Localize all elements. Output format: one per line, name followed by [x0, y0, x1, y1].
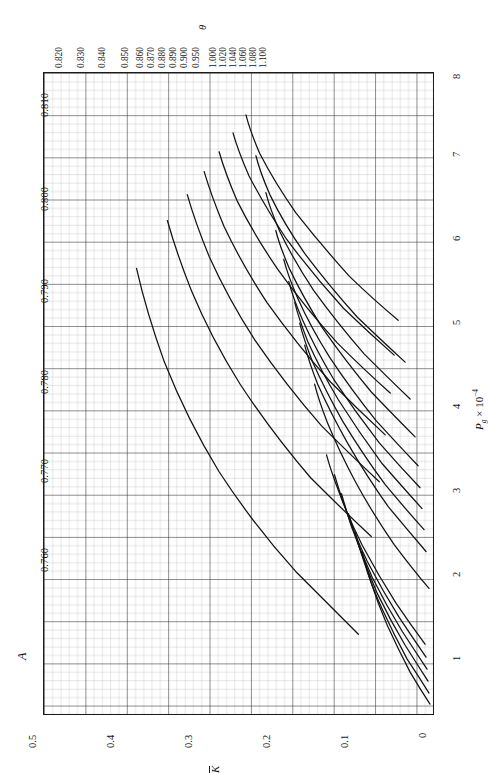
curve-0870: [289, 281, 420, 487]
k-tick-4: 0.1: [340, 735, 351, 748]
curve-label-0800: 0.800: [40, 187, 51, 211]
pg-tick-5: 5: [452, 320, 463, 325]
pg-axis-title-sup: −4: [471, 389, 480, 397]
curve-label-0770: 0.770: [40, 459, 51, 483]
curve-label-0780: 0.780: [40, 370, 51, 394]
pg-tick-1: 1: [452, 656, 463, 661]
curve-label-0790: 0.790: [40, 279, 51, 303]
plot-area: [43, 72, 434, 715]
figure-letter: A: [16, 653, 28, 660]
curve-label-1100: 1.100: [259, 47, 268, 68]
curve-1100: [362, 553, 430, 705]
curve-0850: [276, 231, 415, 437]
curve-1080: [355, 533, 429, 693]
pg-tick-7: 7: [452, 152, 463, 157]
curve-label-1020: 1.020: [219, 47, 228, 68]
curve-label-0900: 0.900: [180, 47, 189, 68]
curve-0760: [137, 268, 359, 634]
k-axis-title-text: K: [209, 766, 221, 773]
curve-0800: [219, 152, 390, 393]
pg-axis-title: Pg × 10−4: [472, 389, 487, 430]
curve-0900: [305, 345, 426, 551]
curve-label-1000: 1.000: [209, 47, 218, 68]
theta-legend-symbol: θ: [198, 25, 209, 30]
curve-label-0760: 0.760: [40, 548, 51, 572]
k-tick-1: 0.4: [106, 735, 117, 748]
curve-label-0860: 0.860: [136, 47, 145, 68]
pg-tick-6: 6: [452, 236, 463, 241]
curve-label-0830: 0.830: [77, 47, 86, 68]
k-tick-5: 0: [418, 733, 429, 738]
curve-0820: [246, 115, 398, 320]
curve-0880: [295, 302, 422, 508]
curve-label-1060: 1.060: [239, 47, 248, 68]
curve-label-0890: 0.890: [169, 47, 178, 68]
pg-tick-4: 4: [452, 404, 463, 409]
pg-axis-title-sub: g: [479, 420, 488, 424]
curve-label-0870: 0.870: [147, 47, 156, 68]
curve-label-0850: 0.850: [121, 47, 130, 68]
pg-tick-2: 2: [452, 572, 463, 577]
curve-label-0810: 0.810: [40, 93, 51, 117]
curve-label-1080: 1.080: [249, 47, 258, 68]
curve-label-0880: 0.880: [158, 47, 167, 68]
k-axis-title: K: [209, 766, 221, 773]
k-tick-2: 0.3: [184, 735, 195, 748]
pg-tick-8: 8: [452, 74, 463, 79]
curve-0770: [167, 221, 371, 537]
curve-label-1040: 1.040: [229, 47, 238, 68]
k-tick-0: 0.5: [28, 735, 39, 748]
pg-axis-title-base: P: [473, 423, 485, 430]
curve-label-0820: 0.820: [55, 47, 64, 68]
pg-tick-3: 3: [452, 488, 463, 493]
curve-1060: [348, 514, 428, 681]
pg-axis-title-mid: × 10: [473, 397, 485, 420]
curve-1000: [327, 455, 425, 644]
k-tick-3: 0.2: [262, 735, 273, 748]
curve-0810: [233, 133, 394, 355]
curve-label-0840: 0.840: [98, 47, 107, 68]
curve-1020: [335, 475, 427, 657]
curve-layer: [44, 73, 433, 714]
curve-label-0950: 0.950: [192, 47, 201, 68]
